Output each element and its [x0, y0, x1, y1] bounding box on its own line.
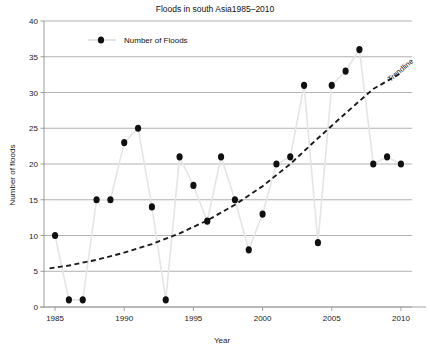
data-point: [232, 196, 238, 203]
data-point: [52, 232, 58, 239]
data-point: [329, 82, 335, 89]
data-point: [246, 246, 252, 253]
trendline-path: [50, 74, 400, 268]
data-point: [66, 296, 72, 303]
legend-label: Number of Floods: [124, 36, 188, 45]
data-points: [52, 46, 404, 303]
data-point: [398, 160, 404, 167]
trendline: [50, 74, 400, 268]
y-axis-tick-labels: 0510152025303540: [29, 17, 38, 312]
x-tick-label: 2000: [254, 314, 272, 323]
legend: Number of Floods: [88, 36, 188, 45]
x-tick-label: 2005: [323, 314, 341, 323]
data-point: [301, 82, 307, 89]
data-point: [259, 210, 265, 217]
x-tick-label: 1990: [115, 314, 133, 323]
data-point: [107, 196, 113, 203]
x-axis-label: Year: [214, 336, 231, 345]
data-point: [273, 160, 279, 167]
chart-canvas: 0510152025303540 19851990199520002005201…: [0, 0, 430, 348]
data-point: [163, 296, 169, 303]
chart-title: Floods in south Asia1985–2010: [156, 4, 275, 14]
data-point: [176, 153, 182, 160]
series-connector-line: [55, 50, 401, 300]
data-point: [190, 182, 196, 189]
x-tick-label: 2010: [392, 314, 410, 323]
series-connector: [55, 50, 401, 300]
flood-chart: 0510152025303540 19851990199520002005201…: [0, 0, 430, 348]
data-point: [287, 153, 293, 160]
trendline-annotation: Trendline: [386, 57, 416, 84]
data-point: [315, 239, 321, 246]
y-axis-label: Number of floods: [8, 145, 17, 206]
x-tick-label: 1995: [185, 314, 203, 323]
data-point: [342, 67, 348, 74]
x-axis-tick-labels: 198519901995200020052010: [46, 314, 410, 323]
data-point: [370, 160, 376, 167]
data-point: [218, 153, 224, 160]
data-point: [384, 153, 390, 160]
gridlines: [44, 21, 412, 307]
data-point: [80, 296, 86, 303]
data-point: [121, 139, 127, 146]
data-point: [135, 125, 141, 132]
y-tick-label: 25: [29, 124, 38, 133]
y-tick-label: 15: [29, 196, 38, 205]
data-point: [93, 196, 99, 203]
y-tick-label: 35: [29, 53, 38, 62]
y-tick-label: 10: [29, 232, 38, 241]
data-point: [149, 203, 155, 210]
y-tick-label: 20: [29, 160, 38, 169]
y-axis-ticks: [41, 21, 45, 307]
legend-marker-icon: [98, 36, 104, 43]
x-axis-ticks: [55, 307, 401, 311]
y-tick-label: 5: [34, 267, 39, 276]
data-point: [204, 218, 210, 225]
x-tick-label: 1985: [46, 314, 64, 323]
y-tick-label: 40: [29, 17, 38, 26]
data-point: [356, 46, 362, 53]
y-tick-label: 0: [34, 303, 39, 312]
y-tick-label: 30: [29, 89, 38, 98]
